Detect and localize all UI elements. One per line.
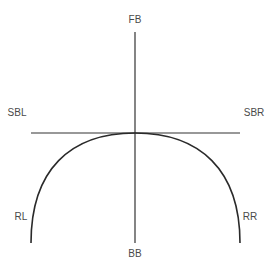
diagram-canvas: FB SBL SBR RL RR BB [0,0,271,268]
label-bb: BB [128,248,142,259]
label-sbr: SBR [244,107,265,118]
label-sbl: SBL [8,107,27,118]
label-fb: FB [129,14,142,25]
label-rr: RR [243,211,257,222]
label-rl: RL [15,211,28,222]
